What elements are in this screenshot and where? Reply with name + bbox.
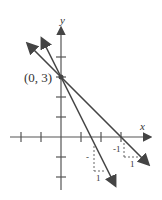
shallow-run-label: 1 xyxy=(130,159,135,169)
x-axis-label: x xyxy=(140,120,145,132)
graph-svg xyxy=(0,0,162,200)
y-axis-label: y xyxy=(60,14,65,26)
steep-run-label: 1 xyxy=(96,173,101,183)
graph: y x (0, 3) - 1 -1 1 xyxy=(0,0,162,200)
steep-rise-label: - xyxy=(86,152,89,162)
point-label: (0, 3) xyxy=(24,70,52,86)
shallow-rise-label: -1 xyxy=(113,144,121,154)
